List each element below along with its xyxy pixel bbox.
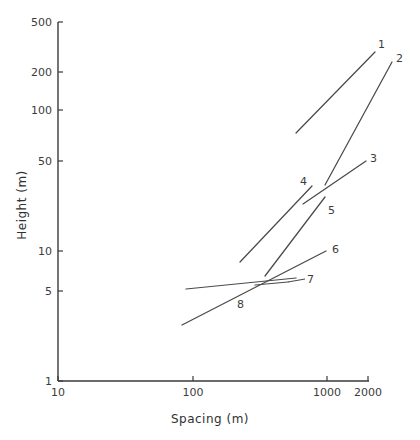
chart-figure: 500 200 100 50 10 5 1 10 100 1000 2000 S… (0, 0, 420, 440)
data-series-group (182, 52, 392, 325)
y-ticklabel-50: 50 (38, 155, 52, 168)
series-line-4[interactable] (240, 186, 312, 262)
x-axis-ticks (58, 376, 368, 381)
series-label-1: 1 (378, 38, 385, 51)
series-label-7: 7 (307, 273, 314, 286)
series-7-leader-line (288, 279, 305, 282)
x-ticklabel-100: 100 (183, 386, 204, 399)
log-log-chart: 500 200 100 50 10 5 1 10 100 1000 2000 S… (0, 0, 420, 440)
y-axis-ticks (58, 22, 63, 381)
x-ticklabel-10: 10 (51, 386, 65, 399)
series-label-5: 5 (328, 204, 335, 217)
series-label-6: 6 (332, 243, 339, 256)
y-ticklabel-200: 200 (31, 66, 52, 79)
x-axis-title: Spacing (m) (171, 412, 249, 426)
x-ticklabel-1000: 1000 (313, 386, 341, 399)
y-ticklabel-100: 100 (31, 104, 52, 117)
series-label-4: 4 (300, 175, 307, 188)
y-axis-title: Height (m) (15, 170, 29, 240)
x-ticklabel-2000: 2000 (354, 386, 382, 399)
series-line-5[interactable] (265, 197, 325, 276)
y-ticklabel-10: 10 (38, 245, 52, 258)
series-label-3: 3 (370, 152, 377, 165)
series-line-7[interactable] (255, 282, 288, 285)
series-labels-group: 1 2 3 4 5 6 7 8 (237, 38, 403, 311)
x-axis-tick-labels: 10 100 1000 2000 (51, 386, 382, 399)
y-ticklabel-5: 5 (45, 285, 52, 298)
series-label-8: 8 (237, 298, 244, 311)
series-line-8[interactable] (186, 278, 296, 289)
y-ticklabel-500: 500 (31, 16, 52, 29)
series-label-2: 2 (396, 52, 403, 65)
series-line-1[interactable] (296, 52, 375, 133)
y-axis-tick-labels: 500 200 100 50 10 5 1 (31, 16, 52, 388)
series-line-6[interactable] (182, 251, 326, 325)
